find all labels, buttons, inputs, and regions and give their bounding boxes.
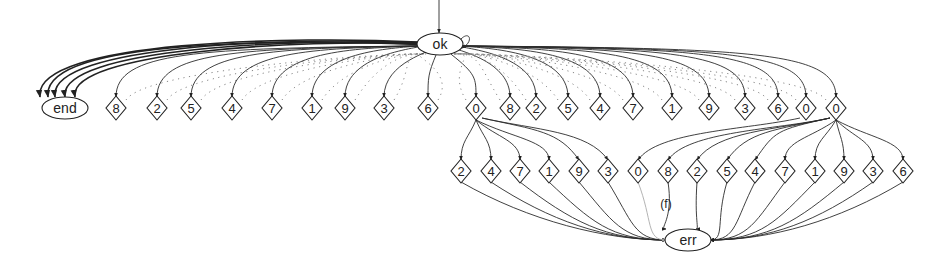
digit-to-err-edge bbox=[710, 182, 873, 240]
digit-label: 9 bbox=[840, 164, 847, 179]
digit-label: 9 bbox=[341, 101, 348, 116]
digit-to-ok-edge bbox=[454, 54, 466, 100]
digit-label: 0 bbox=[634, 164, 641, 179]
ok-to-digit-edge bbox=[191, 46, 420, 97]
digit-label: 1 bbox=[668, 101, 675, 116]
digit-to-digit-edge bbox=[638, 118, 800, 160]
digit-to-ok-edge bbox=[454, 54, 768, 100]
err-label: err bbox=[679, 232, 696, 248]
digit-label: 0 bbox=[472, 101, 479, 116]
digit-label: 4 bbox=[228, 101, 235, 116]
digit-to-ok-edge bbox=[419, 54, 442, 100]
digit-label: 2 bbox=[457, 164, 464, 179]
digit-label: 4 bbox=[487, 164, 494, 179]
digit-label: 1 bbox=[308, 101, 315, 116]
digit-label: 3 bbox=[869, 164, 876, 179]
digit-to-err-edge bbox=[608, 182, 666, 240]
digit-to-err-edge bbox=[549, 182, 666, 240]
digit-to-ok-edge bbox=[454, 54, 500, 100]
digit-to-err-edge bbox=[696, 182, 697, 229]
digit-label: 9 bbox=[575, 164, 582, 179]
digit-to-digit-edge bbox=[836, 120, 903, 160]
digit-to-digit-edge bbox=[815, 120, 836, 160]
digit-label: 6 bbox=[424, 101, 431, 116]
digit-label: 8 bbox=[506, 101, 513, 116]
end-label: end bbox=[53, 100, 76, 116]
digit-label: 6 bbox=[899, 164, 906, 179]
nodes-layer: (f)okenderr82547193608254719360024719308… bbox=[42, 33, 913, 251]
digit-to-digit-edge bbox=[476, 120, 520, 160]
digit-label: 0 bbox=[832, 101, 839, 116]
digit-to-err-edge bbox=[638, 182, 666, 240]
digit-label: 1 bbox=[545, 164, 552, 179]
digit-label: 6 bbox=[774, 101, 781, 116]
ok-to-digit-edge bbox=[345, 46, 420, 97]
digit-label: 2 bbox=[532, 101, 539, 116]
digit-label: 3 bbox=[380, 101, 387, 116]
digit-to-err-edge bbox=[579, 182, 666, 240]
digit-to-digit-edge bbox=[482, 118, 608, 160]
digit-label: 5 bbox=[564, 101, 571, 116]
digit-label: 5 bbox=[723, 164, 730, 179]
digit-to-ok-edge bbox=[454, 54, 558, 100]
digit-to-ok-edge bbox=[394, 54, 426, 100]
digit-label: 7 bbox=[516, 164, 523, 179]
digit-to-err-edge bbox=[710, 182, 815, 240]
digit-label: 0 bbox=[802, 101, 809, 116]
digit-label: 7 bbox=[629, 101, 636, 116]
digit-label: 8 bbox=[664, 164, 671, 179]
digit-label: 4 bbox=[751, 164, 758, 179]
digit-to-ok-edge bbox=[242, 54, 426, 100]
digit-label: 8 bbox=[112, 101, 119, 116]
digit-to-ok-edge bbox=[126, 54, 426, 100]
digit-label: 1 bbox=[811, 164, 818, 179]
digit-to-ok-edge bbox=[454, 54, 526, 100]
digit-label: 9 bbox=[705, 101, 712, 116]
digit-to-err-edge bbox=[710, 182, 755, 240]
digit-to-ok-edge bbox=[454, 54, 735, 100]
state-diagram: (f)okenderr82547193608254719360024719308… bbox=[0, 0, 952, 268]
digit-to-err-edge bbox=[710, 182, 727, 240]
ok-to-digit-edge bbox=[460, 46, 709, 97]
ok-to-digit-edge bbox=[428, 54, 436, 97]
digit-label: 7 bbox=[781, 164, 788, 179]
edges-layer bbox=[40, 0, 903, 240]
ok-label: ok bbox=[433, 36, 449, 52]
digit-to-digit-edge bbox=[668, 118, 830, 160]
ok-to-digit-edge bbox=[451, 54, 476, 97]
digit-to-ok-edge bbox=[167, 54, 426, 100]
digit-label: 2 bbox=[153, 101, 160, 116]
digit-to-digit-edge bbox=[482, 118, 579, 160]
digit-to-digit-edge bbox=[461, 120, 476, 160]
digit-to-ok-edge bbox=[322, 54, 426, 100]
digit-label: 4 bbox=[596, 101, 603, 116]
digit-label: 2 bbox=[693, 164, 700, 179]
digit-to-digit-edge bbox=[727, 118, 830, 160]
edge-label: (f) bbox=[660, 197, 671, 211]
digit-label: 3 bbox=[741, 101, 748, 116]
digit-label: 7 bbox=[268, 101, 275, 116]
ok-to-digit-edge bbox=[460, 46, 600, 97]
digit-label: 3 bbox=[604, 164, 611, 179]
digit-to-ok-edge bbox=[201, 54, 426, 100]
digit-to-ok-edge bbox=[454, 54, 699, 100]
digit-label: 5 bbox=[187, 101, 194, 116]
digit-to-err-edge bbox=[461, 182, 666, 240]
